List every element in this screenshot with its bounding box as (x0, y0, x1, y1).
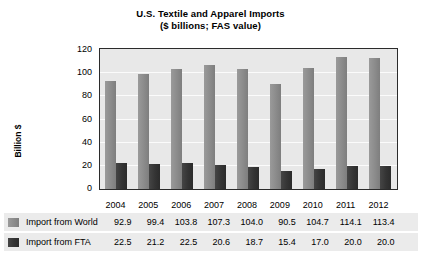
table-cell-fta: 18.7 (231, 233, 263, 251)
bar-fta (314, 169, 325, 189)
x-tick-label: 2009 (264, 198, 296, 212)
table-cell-world: 114.1 (330, 213, 362, 231)
table-cell-fta: 22.5 (165, 233, 197, 251)
y-axis-ticks: 120100806040200 (56, 40, 96, 198)
x-tick-label: 2008 (231, 198, 263, 212)
bar-group (237, 49, 259, 189)
table-cell-world: 107.3 (198, 213, 230, 231)
table-cell-fta: 21.2 (132, 233, 164, 251)
bar-fta (281, 171, 292, 189)
bar-world (105, 81, 116, 189)
y-tick-label: 0 (56, 184, 92, 193)
bar-group (270, 49, 292, 189)
x-tick-label: 2007 (198, 198, 230, 212)
x-tick-label: 2004 (99, 198, 131, 212)
table-cell-fta: 17.0 (297, 233, 329, 251)
bar-group (369, 49, 391, 189)
bar-group (171, 49, 193, 189)
table-cell-world: 113.4 (363, 213, 395, 231)
bar-group (105, 49, 127, 189)
bar-group (204, 49, 226, 189)
chart-subtitle: ($ billions; FAS value) (0, 20, 421, 32)
x-tick-label: 2010 (297, 198, 329, 212)
bar-group (138, 49, 160, 189)
page-title: U.S. Textile and Apparel Imports (0, 8, 421, 20)
bar-group (336, 49, 358, 189)
table-cell-world: 99.4 (132, 213, 164, 231)
table-cell-fta: 20.6 (198, 233, 230, 251)
x-tick-label: 2011 (330, 198, 362, 212)
bar-world (336, 57, 347, 189)
plot-inner (100, 49, 397, 189)
table-cell-fta: 15.4 (264, 233, 296, 251)
data-table: Import from World 92.999.4103.8107.3104.… (4, 213, 418, 253)
table-cell-fta: 22.5 (99, 233, 131, 251)
bar-fta (380, 166, 391, 189)
table-cell-world: 104.0 (231, 213, 263, 231)
bar-world (204, 65, 215, 189)
chart-title-block: U.S. Textile and Apparel Imports ($ bill… (0, 8, 421, 32)
x-tick-label: 2006 (165, 198, 197, 212)
bars-layer (100, 49, 397, 189)
table-cell-world: 92.9 (99, 213, 131, 231)
x-axis-year-labels: 200420052006200720082009201020112012 (99, 198, 398, 212)
bar-fta (347, 166, 358, 189)
bar-fta (215, 165, 226, 189)
bar-fta (248, 167, 259, 189)
chart-page: U.S. Textile and Apparel Imports ($ bill… (0, 0, 421, 259)
bar-world (303, 68, 314, 189)
x-tick-label: 2012 (363, 198, 395, 212)
table-cell-world: 104.7 (297, 213, 329, 231)
table-cell-world: 90.5 (264, 213, 296, 231)
bar-group (303, 49, 325, 189)
y-tick-label: 20 (56, 161, 92, 170)
bar-fta (182, 163, 193, 189)
y-tick-label: 80 (56, 91, 92, 100)
plot-frame (99, 48, 398, 190)
table-cell-fta: 20.0 (330, 233, 362, 251)
y-tick-label: 120 (56, 45, 92, 54)
chart-area: Billion $ 120100806040200 (0, 40, 421, 198)
y-axis-title: Billion $ (13, 106, 23, 176)
y-tick-label: 100 (56, 68, 92, 77)
table-row-fta: Import from FTA 22.521.222.520.618.715.4… (4, 233, 418, 251)
bar-world (270, 84, 281, 189)
bar-world (237, 69, 248, 189)
x-tick-label: 2005 (132, 198, 164, 212)
bar-world (369, 58, 380, 189)
bar-world (138, 74, 149, 189)
y-tick-label: 40 (56, 138, 92, 147)
y-tick-label: 60 (56, 115, 92, 124)
bar-world (171, 69, 182, 189)
table-row-world: Import from World 92.999.4103.8107.3104.… (4, 213, 418, 231)
table-cell-world: 103.8 (165, 213, 197, 231)
bar-fta (149, 164, 160, 189)
table-cell-fta: 20.0 (363, 233, 395, 251)
legend-swatch-world-icon (8, 218, 19, 227)
bar-fta (116, 163, 127, 189)
legend-swatch-fta-icon (8, 238, 19, 247)
